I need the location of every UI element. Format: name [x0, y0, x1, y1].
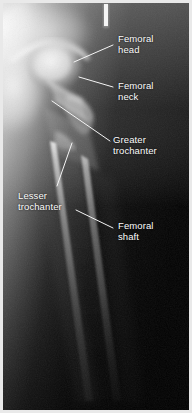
annotation-label-femoral-neck: Femoral neck [118, 80, 154, 102]
annotation-label-lesser-trochanter: Lesser trochanter [18, 190, 62, 212]
xray-figure: Femoral headFemoral neckGreater trochant… [0, 0, 192, 413]
annotation-label-greater-trochanter: Greater trochanter [113, 134, 157, 156]
annotation-label-femoral-head: Femoral head [118, 33, 154, 55]
annotation-layer: Femoral headFemoral neckGreater trochant… [0, 0, 192, 413]
annotation-label-femoral-shaft: Femoral shaft [118, 220, 154, 242]
